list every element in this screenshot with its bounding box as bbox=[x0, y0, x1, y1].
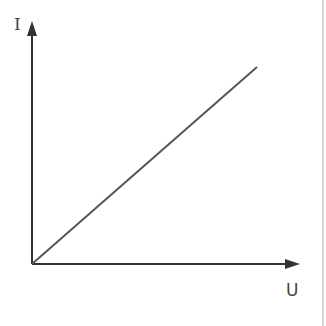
right-border bbox=[322, 0, 324, 326]
chart-svg bbox=[0, 0, 326, 326]
y-axis-arrow-icon bbox=[27, 21, 37, 36]
data-line bbox=[32, 67, 257, 264]
x-axis-arrow-icon bbox=[285, 259, 300, 269]
x-axis-label: U bbox=[286, 280, 298, 300]
y-axis-label: I bbox=[14, 14, 21, 34]
chart-area bbox=[0, 0, 326, 326]
